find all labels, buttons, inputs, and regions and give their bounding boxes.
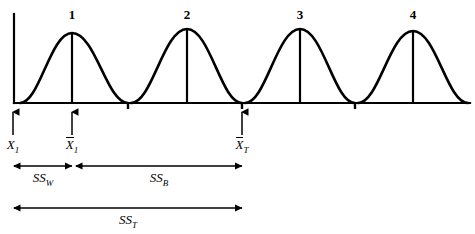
variable-symbol: X: [66, 137, 74, 152]
measure-symbol: SS: [119, 212, 132, 227]
variable-subscript: 1: [74, 145, 79, 155]
group-label-3: 3: [288, 8, 312, 22]
measure-symbol: SS: [33, 170, 46, 185]
measure-symbol: SS: [150, 170, 163, 185]
measure-label-SS-W: SSW: [18, 170, 68, 188]
measure-label-SS-B: SSB: [134, 170, 184, 188]
group-label-1: 1: [60, 8, 84, 22]
axis-value-label-2: X1: [52, 137, 92, 158]
diagram-canvas: [0, 0, 475, 234]
group-label-4: 4: [401, 8, 425, 22]
measure-subscript: B: [163, 178, 169, 188]
axis-value-label-3: XT: [222, 137, 262, 158]
sum-of-squares-diagram: 1234X1X1XTSSWSSBSST: [0, 0, 475, 234]
variable-symbol: X: [7, 137, 15, 152]
variable-subscript: 1: [15, 145, 20, 155]
distribution-curve-1: [20, 33, 128, 103]
group-label-2: 2: [175, 8, 199, 22]
measure-subscript: W: [46, 178, 54, 188]
axis-value-label-1: X1: [0, 137, 33, 158]
variable-subscript: T: [243, 145, 248, 155]
measure-subscript: T: [132, 220, 137, 230]
measure-label-SS-T: SST: [103, 212, 153, 230]
